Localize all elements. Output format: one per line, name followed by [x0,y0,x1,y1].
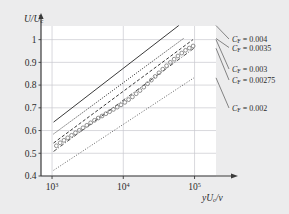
y-tick-label-0: 1 [32,35,37,45]
figure-container: CF = 0.004CF = 0.0035CF = 0.003CF = 0.00… [0,0,289,214]
y-tick-label-2: 0.8 [25,80,37,90]
legend-label-4: CF = 0.002 [232,104,267,113]
y-tick-label-6: 0.4 [25,171,37,181]
chart-svg: CF = 0.004CF = 0.0035CF = 0.003CF = 0.00… [0,0,289,214]
legend-label-2: CF = 0.003 [232,65,267,74]
y-tick-label-1: 0.9 [25,58,37,68]
x-axis-title: yUc/ν [201,193,223,203]
y-tick-label-4: 0.6 [25,126,37,136]
y-tick-label-5: 0.5 [25,149,37,159]
y-tick-label-3: 0.7 [25,103,37,113]
